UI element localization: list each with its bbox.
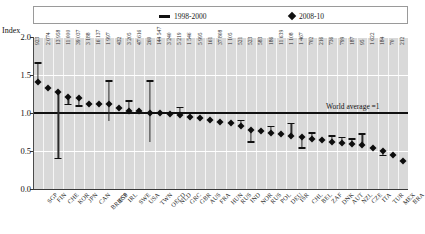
range-cap [106, 80, 113, 82]
data-point-group[interactable] [398, 37, 408, 189]
marker-2008-10 [267, 129, 274, 136]
publication-count-label: 260 [146, 37, 152, 45]
data-point-group[interactable] [266, 37, 276, 189]
marker-2008-10 [85, 101, 92, 108]
y-axis-tick-mark [30, 37, 33, 38]
publication-count-label: 47 616 [136, 30, 142, 45]
range-cap [349, 138, 356, 140]
data-point-group[interactable] [347, 37, 357, 189]
data-point-group[interactable] [134, 37, 144, 189]
y-axis-tick-label: 1.5 [0, 70, 31, 80]
marker-2008-10 [105, 101, 112, 108]
marker-2008-10 [197, 115, 204, 122]
legend-label-1: 1998-2000 [174, 12, 207, 21]
marker-2008-10 [399, 157, 406, 164]
y-axis-tick-label: 1.0 [0, 108, 31, 118]
legend-label-2: 2008-10 [299, 12, 324, 21]
x-axis-line [33, 189, 408, 190]
y-axis-tick-label: 0.5 [0, 146, 31, 156]
range-cap [176, 107, 183, 109]
marker-2008-10 [126, 107, 133, 114]
publication-count-label: 1 108 [288, 32, 294, 45]
data-point-group[interactable] [155, 37, 165, 189]
data-point-group[interactable] [378, 37, 388, 189]
data-point-group[interactable] [144, 37, 154, 189]
publication-count-label: 16 137 [95, 30, 101, 45]
chart-legend: 1998-2000 2008-10 [33, 6, 408, 24]
x-axis-label: IRL [126, 191, 138, 203]
marker-2008-10 [217, 118, 224, 125]
plot-area [33, 37, 408, 189]
publication-count-label: 702 [308, 37, 314, 45]
data-point-group[interactable] [94, 37, 104, 189]
range-bar-1998-2000 [58, 92, 59, 159]
range-cap [146, 80, 153, 82]
data-point-group[interactable] [53, 37, 63, 189]
marker-2008-10 [359, 141, 366, 148]
data-point-group[interactable] [297, 37, 307, 189]
marker-2008-10 [257, 128, 264, 135]
data-point-group[interactable] [124, 37, 134, 189]
range-cap [308, 132, 315, 134]
y-axis-tick-mark [30, 75, 33, 76]
data-point-group[interactable] [307, 37, 317, 189]
data-point-group[interactable] [84, 37, 94, 189]
data-point-group[interactable] [286, 37, 296, 189]
data-point-group[interactable] [388, 37, 398, 189]
marker-2008-10 [136, 108, 143, 115]
publication-count-label: 216 [318, 37, 324, 45]
data-point-group[interactable] [215, 37, 225, 189]
data-point-group[interactable] [236, 37, 246, 189]
marker-2008-10 [55, 88, 62, 95]
data-point-group[interactable] [256, 37, 266, 189]
legend-item-1998-2000: 1998-2000 [159, 7, 207, 25]
data-point-group[interactable] [63, 37, 73, 189]
data-point-group[interactable] [367, 37, 377, 189]
publication-count-label: 13 958 [55, 30, 61, 45]
publication-count-label: 3 205 [126, 32, 132, 45]
range-cap [328, 135, 335, 137]
publication-count-label: 1 622 [369, 32, 375, 45]
data-point-group[interactable] [246, 37, 256, 189]
data-point-group[interactable] [337, 37, 347, 189]
marker-2008-10 [45, 84, 52, 91]
marker-2008-10 [369, 144, 376, 151]
publication-count-label: 521 [237, 37, 243, 45]
marker-2008-10 [156, 109, 163, 116]
data-point-group[interactable] [357, 37, 367, 189]
marker-2008-10 [227, 120, 234, 127]
publication-count-label: 799 [339, 37, 345, 45]
publication-count-label: 2 074 [45, 32, 51, 45]
range-cap [288, 123, 295, 125]
y-axis-tick-mark [30, 113, 33, 114]
data-point-group[interactable] [33, 37, 43, 189]
data-point-group[interactable] [205, 37, 215, 189]
y-axis-tick-label: 2.0 [0, 32, 31, 42]
range-cap [126, 100, 133, 102]
data-point-group[interactable] [317, 37, 327, 189]
publication-count-label: 37 808 [217, 30, 223, 45]
data-point-group[interactable] [175, 37, 185, 189]
data-point-group[interactable] [185, 37, 195, 189]
publication-count-label: 39 037 [75, 30, 81, 45]
marker-2008-10 [338, 140, 345, 147]
data-point-group[interactable] [114, 37, 124, 189]
data-point-group[interactable] [43, 37, 53, 189]
data-point-group[interactable] [104, 37, 114, 189]
data-point-group[interactable] [327, 37, 337, 189]
publication-count-label: 1 546 [186, 32, 192, 45]
data-point-group[interactable] [165, 37, 175, 189]
data-point-group[interactable] [74, 37, 84, 189]
publication-count-label: 736 [328, 37, 334, 45]
publication-count-label: 523 [247, 37, 253, 45]
legend-item-2008-10: 2008-10 [289, 7, 324, 25]
data-point-group[interactable] [276, 37, 286, 189]
publication-count-label: 1 467 [298, 32, 304, 45]
data-point-group[interactable] [195, 37, 205, 189]
range-cap [268, 126, 275, 128]
publication-count-label: 1 997 [105, 32, 111, 45]
marker-2008-10 [34, 79, 41, 86]
publication-count-label: 583 [257, 37, 263, 45]
data-point-group[interactable] [226, 37, 236, 189]
